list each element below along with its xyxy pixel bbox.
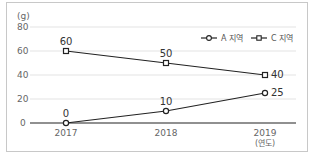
square-marker	[64, 49, 69, 54]
x-axis-label: (연도)	[255, 139, 275, 148]
legend-circle-icon	[207, 36, 212, 41]
legend: A 지역 C 지역	[201, 33, 293, 43]
square-marker	[164, 61, 169, 66]
y-tick-80: 80	[17, 22, 29, 32]
data-label: 10	[160, 96, 173, 107]
x-tick-2019: 2019	[254, 128, 277, 138]
series-c: 60 50 40	[60, 36, 284, 80]
data-label: 50	[160, 48, 173, 59]
data-label: 60	[60, 36, 73, 47]
series-a: 0 10 25	[63, 87, 284, 126]
y-tick-40: 40	[17, 70, 29, 80]
y-tick-20: 20	[17, 94, 29, 104]
x-tick-2018: 2018	[155, 128, 178, 138]
data-label: 40	[271, 69, 284, 80]
legend-label-a: A 지역	[221, 33, 243, 43]
y-axis-label: (g)	[17, 11, 30, 21]
data-label: 0	[63, 108, 69, 119]
circle-marker	[262, 90, 267, 95]
square-marker	[263, 73, 268, 78]
circle-marker	[163, 108, 168, 113]
data-label: 25	[271, 87, 284, 98]
line-chart: (g) 80 60 40 20 0 2017 2018 2019 (연도) 60…	[0, 0, 314, 160]
legend-label-c: C 지역	[271, 33, 293, 43]
y-tick-60: 60	[17, 46, 29, 56]
circle-marker	[63, 120, 68, 125]
x-tick-2017: 2017	[55, 128, 78, 138]
legend-square-icon	[257, 36, 261, 40]
y-tick-0: 0	[20, 118, 26, 128]
